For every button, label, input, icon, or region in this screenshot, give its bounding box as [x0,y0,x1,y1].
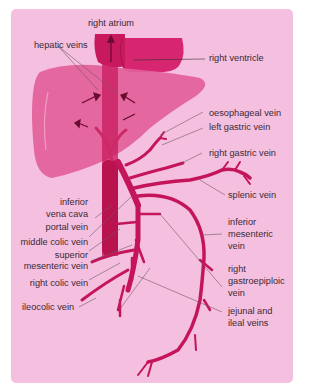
label-right-gastroepiploic-vein-line1: right [228,264,246,275]
label-hepatic-veins: hepatic veins [34,40,88,51]
label-superior-mesenteric-vein-line1: superior [55,250,88,261]
label-inferior-mesenteric-vein-line1: inferior [228,217,256,228]
label-jejunal-ileal-veins-line2: ileal veins [228,318,268,329]
label-right-gastroepiploic-vein-line3: vein [228,288,245,299]
label-right-gastric-vein: right gastric vein [209,148,276,159]
label-right-ventricle: right ventricle [209,53,264,64]
label-jejunal-ileal-veins-line1: jejunal and [228,306,272,317]
label-right-atrium: right atrium [88,18,134,29]
label-portal-vein: portal vein [46,222,88,233]
label-inferior-vena-cava-line1: inferior [60,197,88,208]
label-splenic-vein: splenic vein [228,190,276,201]
label-inferior-mesenteric-vein-line3: vein [228,241,245,252]
right-ventricle-shape [122,38,184,72]
label-inferior-mesenteric-vein-line2: mesenteric [228,229,273,240]
label-left-gastric-vein: left gastric vein [209,122,270,133]
label-right-gastroepiploic-vein-line2: gastroepiploic [228,276,285,287]
label-right-colic-vein: right colic vein [30,278,88,289]
label-inferior-vena-cava-line2: vena cava [46,209,88,220]
label-superior-mesenteric-vein-line2: mesenteric vein [24,261,88,272]
label-ileocolic-vein: ileocolic vein [22,302,74,313]
label-middle-colic-vein: middle colic vein [21,237,88,248]
label-oesophageal-vein: oesophageal vein [209,108,281,119]
